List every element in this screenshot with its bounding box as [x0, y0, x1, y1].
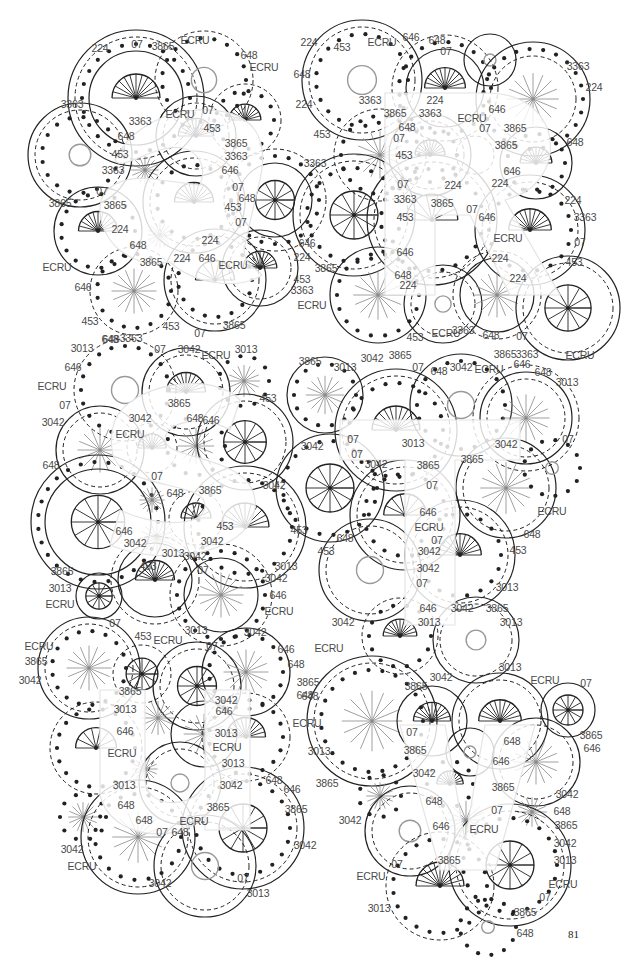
thread-code-label: 646 — [489, 104, 506, 115]
thread-code-label: 3042 — [556, 789, 579, 800]
thread-code-label: 3042 — [201, 536, 224, 547]
thread-code-label: 3865 — [119, 686, 142, 697]
thread-code-label: 07 — [406, 727, 417, 738]
thread-code-label: 3363 — [394, 194, 417, 205]
thread-code-label: ECRU — [531, 675, 560, 686]
page-number: 81 — [568, 928, 579, 940]
thread-code-label: 3865 — [492, 782, 515, 793]
thread-code-label: 3042 — [339, 815, 362, 826]
thread-code-label: 646 — [222, 165, 239, 176]
thread-code-label: 07 — [516, 331, 527, 342]
thread-code-label: 3865 — [25, 656, 48, 667]
thread-code-label: 648 — [118, 800, 135, 811]
thread-code-label: 646 — [116, 526, 133, 537]
thread-code-label: ECRU — [46, 599, 75, 610]
thread-code-label: 07 — [574, 237, 585, 248]
thread-code-label: 07 — [206, 641, 217, 652]
thread-code-label: 3013 — [49, 583, 72, 594]
thread-code-label: 3042 — [430, 672, 453, 683]
thread-code-label: 07 — [154, 344, 165, 355]
thread-code-label: 648 — [167, 488, 184, 499]
thread-code-label: ECRU — [108, 748, 137, 759]
thread-code-label: 453 — [140, 561, 157, 572]
thread-code-label: ECRU — [116, 429, 145, 440]
thread-code-label: 453 — [397, 212, 414, 223]
thread-code-label: 453 — [314, 129, 331, 140]
thread-code-label: 07 — [347, 434, 358, 445]
thread-code-label: 3865 — [316, 778, 339, 789]
thread-code-label: 648 — [172, 827, 189, 838]
thread-code-label: 648 — [554, 806, 571, 817]
thread-code-label: 3042 — [184, 551, 207, 562]
thread-code-label: 07 — [131, 39, 142, 50]
thread-code-label: 453 — [291, 525, 308, 536]
thread-code-label: 3042 — [42, 417, 65, 428]
thread-code-label: 3013 — [500, 617, 523, 628]
thread-code-label: 646 — [504, 166, 521, 177]
thread-code-label: 3042 — [332, 617, 355, 628]
thread-code-label: 648 — [136, 815, 153, 826]
thread-code-label: 3042 — [554, 838, 577, 849]
thread-code-label: 3363 — [304, 158, 327, 169]
thread-code-label: 646 — [433, 821, 450, 832]
thread-code-label: 648 — [517, 928, 534, 939]
thread-code-label: 3042 — [61, 844, 84, 855]
thread-code-label: ECRU — [549, 879, 578, 890]
pattern-page: 224073865ECRU648ECRU3363ECRU336307648453… — [0, 0, 627, 970]
thread-code-label: 453 — [112, 149, 129, 160]
thread-code-label: ECRU — [250, 62, 279, 73]
thread-code-label: 3865 — [49, 198, 72, 209]
thread-code-label: 3363 — [359, 95, 382, 106]
stitch-motif-star — [139, 487, 164, 512]
thread-code-label: 224 — [92, 43, 109, 54]
thread-code-label: 3042 — [244, 627, 267, 638]
thread-code-label: 3865 — [555, 820, 578, 831]
thread-code-label: 3013 — [334, 362, 357, 373]
thread-code-label: 3865 — [168, 398, 191, 409]
thread-code-label: 3865 — [315, 263, 338, 274]
stitch-motif-star — [141, 701, 175, 735]
thread-code-label: ECRU — [265, 606, 294, 617]
thread-code-label: 07 — [391, 859, 402, 870]
thread-code-label: ECRU — [180, 816, 209, 827]
thread-code-label: 3013 — [275, 561, 298, 572]
thread-code-label: 224 — [427, 95, 444, 106]
thread-code-label: 3865 — [405, 681, 428, 692]
thread-code-label: 648 — [426, 796, 443, 807]
thread-code-label: 453 — [334, 42, 351, 53]
thread-code-label: ECRU — [68, 861, 97, 872]
thread-code-label: 07 — [202, 105, 213, 116]
thread-code-label: 3013 — [113, 780, 136, 791]
thread-code-label: 3013 — [556, 377, 579, 388]
thread-code-label: 3042 — [413, 768, 436, 779]
thread-code-label: ECRU — [357, 871, 386, 882]
thread-code-label: ECRU — [181, 35, 210, 46]
thread-code-label: 453 — [225, 202, 242, 213]
thread-code-label: 453 — [318, 546, 335, 557]
thread-code-label: 3865 — [417, 460, 440, 471]
thread-code-label: 648 — [535, 367, 552, 378]
thread-code-label: 3042 — [149, 878, 172, 889]
thread-code-label: 648 — [431, 366, 448, 377]
thread-code-label: 3363 — [452, 325, 475, 336]
thread-code-label: 07 — [232, 182, 243, 193]
thread-code-label: 3865 — [431, 198, 454, 209]
thread-code-label: ECRU — [298, 300, 327, 311]
thread-code-label: 3013 — [368, 903, 391, 914]
thread-code-label: 3042 — [220, 780, 243, 791]
thread-code-label: 3013 — [235, 344, 258, 355]
thread-code-label: 648 — [266, 775, 283, 786]
thread-code-label: 648 — [483, 330, 500, 341]
thread-code-label: 648 — [130, 240, 147, 251]
thread-code-label: 3013 — [496, 582, 519, 593]
thread-code-label: 648 — [187, 413, 204, 424]
thread-code-label: 453 — [163, 321, 180, 332]
thread-code-label: 07 — [416, 578, 427, 589]
thread-code-label: 453 — [294, 274, 311, 285]
thread-code-label: 224 — [492, 178, 509, 189]
thread-code-label: 3363 — [419, 108, 442, 119]
thread-code-label: 3042 — [451, 603, 474, 614]
thread-code-label: 453 — [396, 150, 413, 161]
thread-code-label: 646 — [284, 784, 301, 795]
thread-code-label: 648 — [241, 50, 258, 61]
